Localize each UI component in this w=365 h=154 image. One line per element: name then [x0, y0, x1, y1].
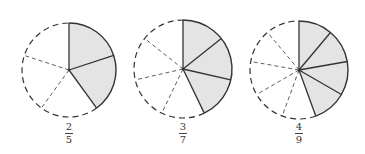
fraction-label-four-ninths: 4 9 [287, 122, 311, 145]
center-dot [298, 69, 301, 72]
numerator: 3 [171, 122, 195, 132]
numerator: 2 [57, 122, 81, 132]
center-dot [68, 69, 71, 72]
dashed-radius [41, 70, 69, 108]
fraction-circle-four-ninths [250, 21, 348, 119]
denominator: 5 [57, 135, 81, 145]
fraction-circle-two-fifths [22, 23, 116, 117]
dashed-radius [282, 70, 299, 116]
denominator: 9 [287, 135, 311, 145]
dashed-radius [268, 32, 299, 70]
dashed-radius [257, 70, 299, 95]
numerator: 4 [287, 122, 311, 132]
dashed-radius [24, 55, 69, 70]
fraction-label-two-fifths: 2 5 [57, 122, 81, 145]
dashed-radius [162, 69, 183, 113]
dashed-radius [145, 38, 183, 69]
fraction-circle-three-sevenths [134, 20, 232, 118]
fraction-label-three-sevenths: 3 7 [171, 122, 195, 145]
center-dot [182, 68, 185, 71]
dashed-radius [135, 69, 183, 80]
dashed-radius [251, 61, 299, 70]
denominator: 7 [171, 135, 195, 145]
